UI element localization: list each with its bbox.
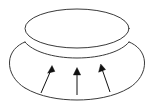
figure-container [0, 0, 154, 103]
diagram-canvas [0, 0, 154, 103]
